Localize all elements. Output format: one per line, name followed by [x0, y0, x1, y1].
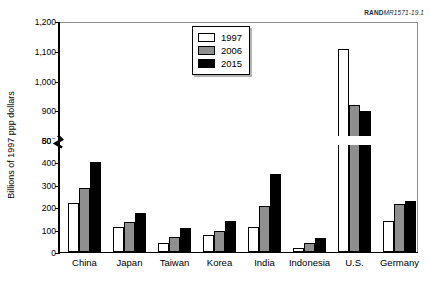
legend-swatch-2006	[198, 46, 215, 55]
y-tick-mark	[55, 52, 60, 53]
bar-Korea-1997	[203, 235, 214, 252]
bar-China-2015	[90, 162, 101, 252]
legend-label-1997: 1997	[221, 33, 242, 43]
legend-swatch-2015	[198, 59, 215, 68]
bar-US-2015-lower	[360, 145, 371, 252]
y-tick-label-0: 0	[24, 249, 56, 258]
x-axis-label-Taiwan: Taiwan	[160, 257, 190, 268]
figure-container: RANDMR1571-19.1 Billions of 1997 ppp dol…	[0, 0, 430, 290]
bar-India-1997	[248, 227, 259, 252]
y-tick-label-900: 900	[24, 107, 56, 116]
bar-Korea-2006	[214, 231, 225, 252]
y-tick-mark	[55, 163, 60, 164]
figure-id-suffix: MR1571-19.1	[384, 9, 424, 16]
y-tick-mark	[55, 22, 60, 23]
bar-China-1997	[68, 203, 79, 252]
legend-label-2006: 2006	[221, 46, 242, 56]
bar-Germany-2015	[405, 201, 416, 252]
x-axis-label-Japan: Japan	[117, 257, 143, 268]
y-axis-title: Billions of 1997 ppp dollars	[6, 45, 16, 245]
bar-US-1997-lower	[338, 145, 349, 252]
figure-id-prefix: RAND	[364, 9, 383, 16]
y-tick-label-1200: 1,200	[24, 18, 56, 27]
x-axis-label-Indonesia: Indonesia	[289, 257, 330, 268]
chart-legend: 199720062015	[192, 26, 250, 75]
legend-item-1997: 1997	[198, 31, 242, 44]
bar-Japan-1997	[113, 227, 124, 252]
y-tick-mark	[55, 111, 60, 112]
y-tick-label-200: 200	[24, 204, 56, 213]
bar-Taiwan-2015	[180, 228, 191, 252]
bar-China-2006	[79, 188, 90, 252]
legend-item-2006: 2006	[198, 44, 242, 57]
x-axis-label-Germany: Germany	[380, 257, 419, 268]
bar-Indonesia-2006	[304, 243, 315, 252]
y-tick-mark	[55, 253, 60, 254]
legend-item-2015: 2015	[198, 57, 242, 70]
x-axis-label-India: India	[254, 257, 275, 268]
y-tick-label-300: 300	[24, 182, 56, 191]
bar-Germany-2006	[394, 204, 405, 252]
y-tick-label-1100: 1,100	[24, 48, 56, 57]
x-axis-label-Korea: Korea	[207, 257, 232, 268]
bar-US-2006-lower	[349, 145, 360, 252]
legend-swatch-1997	[198, 33, 215, 42]
y-tick-mark	[55, 231, 60, 232]
legend-label-2015: 2015	[221, 59, 242, 69]
bar-US-2006-upper	[349, 105, 360, 136]
plot-frame-right	[417, 22, 418, 252]
bar-India-2006	[259, 206, 270, 252]
y-tick-mark	[55, 208, 60, 209]
bar-Germany-1997	[383, 221, 394, 252]
bar-Indonesia-1997	[293, 248, 304, 252]
y-tick-mark	[55, 82, 60, 83]
x-axis-label-China: China	[72, 257, 97, 268]
bar-Japan-2015	[135, 213, 146, 252]
bar-Taiwan-1997	[158, 243, 169, 252]
y-tick-label-400: 400	[24, 159, 56, 168]
x-axis-label-US: U.S.	[345, 257, 363, 268]
figure-id: RANDMR1571-19.1	[364, 9, 424, 16]
y-axis-break-icon	[51, 135, 69, 148]
y-tick-label-1000: 1,000	[24, 77, 56, 86]
bar-US-2015-upper	[360, 111, 371, 136]
bar-India-2015	[270, 174, 281, 252]
y-tick-label-100: 100	[24, 226, 56, 235]
bar-US-1997-upper	[338, 49, 349, 136]
bar-Indonesia-2015	[315, 238, 326, 252]
bar-Korea-2015	[225, 221, 236, 252]
bar-Japan-2006	[124, 222, 135, 252]
plot-frame-top	[60, 22, 418, 23]
y-tick-mark	[55, 186, 60, 187]
bar-Taiwan-2006	[169, 237, 180, 252]
